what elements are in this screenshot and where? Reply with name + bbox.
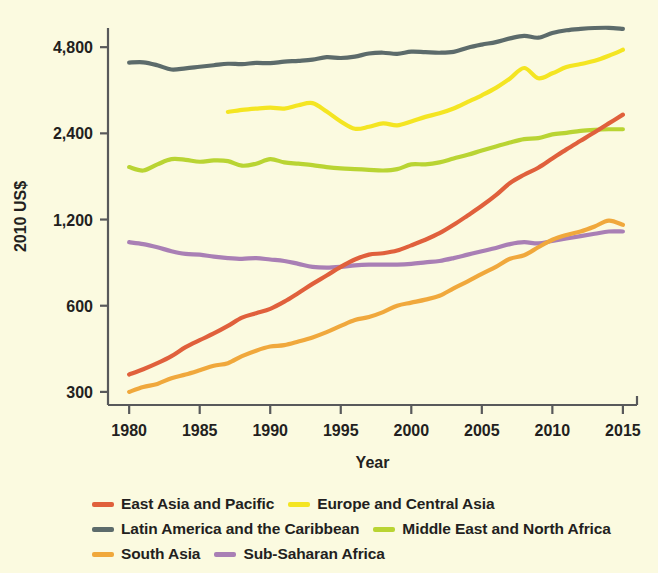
y-tick-label: 300: [66, 384, 93, 401]
legend-label: South Asia: [121, 545, 200, 563]
x-tick-label: 2005: [464, 422, 500, 439]
legend-label: Middle East and North Africa: [402, 520, 611, 538]
y-axis-title: 2010 US$: [12, 181, 29, 252]
legend-label: Latin America and the Caribbean: [121, 520, 359, 538]
chart-legend: East Asia and PacificEurope and Central …: [92, 495, 652, 570]
x-axis-title: Year: [356, 454, 390, 471]
x-tick-label: 2010: [535, 422, 571, 439]
legend-item-middle-east-and-north-africa[interactable]: Middle East and North Africa: [373, 520, 611, 538]
series-line-sub-saharan-africa: [129, 231, 623, 267]
y-tick-label: 2,400: [53, 125, 93, 142]
legend-label: Sub-Saharan Africa: [243, 545, 384, 563]
legend-swatch-icon: [92, 502, 114, 507]
legend-swatch-icon: [92, 552, 114, 557]
legend-item-south-asia[interactable]: South Asia: [92, 545, 200, 563]
series-line-latin-america-and-the-caribbean: [129, 28, 623, 70]
legend-row: Latin America and the CaribbeanMiddle Ea…: [92, 520, 652, 538]
legend-item-europe-and-central-asia[interactable]: Europe and Central Asia: [288, 495, 494, 513]
y-tick-label: 4,800: [53, 39, 93, 56]
y-tick-label: 600: [66, 298, 93, 315]
x-tick-label: 2000: [393, 422, 429, 439]
legend-swatch-icon: [214, 552, 236, 557]
y-tick-label: 1,200: [53, 212, 93, 229]
series-line-south-asia: [129, 221, 623, 392]
series-line-east-asia-and-pacific: [129, 115, 623, 375]
x-tick-label: 1980: [111, 422, 147, 439]
x-tick-label: 1990: [252, 422, 288, 439]
legend-item-east-asia-and-pacific[interactable]: East Asia and Pacific: [92, 495, 274, 513]
legend-label: Europe and Central Asia: [317, 495, 494, 513]
x-tick-label: 1995: [323, 422, 359, 439]
legend-swatch-icon: [288, 502, 310, 507]
legend-label: East Asia and Pacific: [121, 495, 274, 513]
chart-figure: 4,8002,4001,2006003001980198519901995200…: [0, 0, 658, 573]
legend-item-sub-saharan-africa[interactable]: Sub-Saharan Africa: [214, 545, 384, 563]
line-chart-plot: 4,8002,4001,2006003001980198519901995200…: [0, 0, 658, 495]
series-line-middle-east-and-north-africa: [129, 129, 623, 170]
legend-row: South AsiaSub-Saharan Africa: [92, 545, 652, 563]
legend-swatch-icon: [92, 527, 114, 532]
x-tick-label: 1985: [182, 422, 218, 439]
x-tick-label: 2015: [605, 422, 641, 439]
legend-item-latin-america-and-the-caribbean[interactable]: Latin America and the Caribbean: [92, 520, 359, 538]
legend-swatch-icon: [373, 527, 395, 532]
legend-row: East Asia and PacificEurope and Central …: [92, 495, 652, 513]
